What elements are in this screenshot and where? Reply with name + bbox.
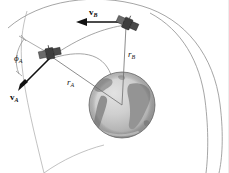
flight-path-angle-subscript: A xyxy=(18,58,23,64)
satellite-a-panel-right xyxy=(53,47,61,55)
orbital-transfer-figure: vB vA rB rA ϕA xyxy=(0,0,229,173)
radius-b-subscript: B xyxy=(132,54,136,60)
radius-a-subscript: A xyxy=(70,82,75,88)
satellite-a-panel-left xyxy=(38,50,46,58)
velocity-b-subscript: B xyxy=(93,12,98,18)
velocity-a-subscript: A xyxy=(14,97,19,103)
figure-canvas: vB vA rB rA ϕA xyxy=(0,0,229,173)
